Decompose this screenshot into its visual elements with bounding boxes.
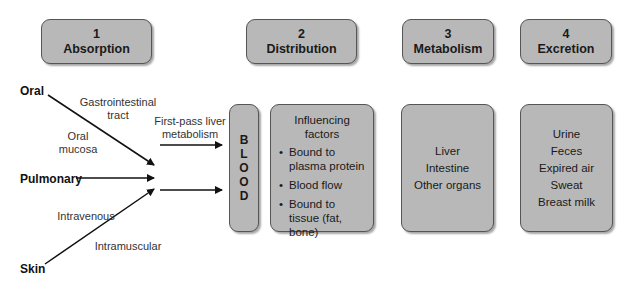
metabolism-site: Intestine bbox=[426, 160, 469, 177]
metabolism-site: Other organs bbox=[414, 177, 481, 194]
label-intramuscular: Intramuscular bbox=[90, 240, 166, 253]
excretion-route: Breast milk bbox=[538, 194, 595, 211]
route-pulmonary: Pulmonary bbox=[20, 172, 82, 186]
metabolism-site: Liver bbox=[435, 143, 460, 160]
factor-item: Bound to tissue (fat, bone) bbox=[279, 197, 365, 239]
factor-item: Bound to plasma protein bbox=[279, 145, 365, 173]
metabolism-sites-box: Liver Intestine Other organs bbox=[401, 104, 494, 232]
excretion-routes-box: Urine Feces Expired air Sweat Breast mil… bbox=[520, 104, 613, 232]
excretion-route: Feces bbox=[551, 143, 582, 160]
excretion-route: Sweat bbox=[551, 177, 583, 194]
factors-title: Influencing factors bbox=[279, 113, 365, 141]
distribution-factors-box: Influencing factors Bound to plasma prot… bbox=[270, 104, 374, 232]
factor-item: Blood flow bbox=[279, 178, 365, 192]
route-skin: Skin bbox=[20, 262, 45, 276]
label-intravenous: Intravenous bbox=[50, 210, 122, 223]
excretion-route: Urine bbox=[553, 126, 580, 143]
blood-column: B L O O D bbox=[229, 104, 259, 232]
label-first-pass: First-pass liver metabolism bbox=[150, 115, 230, 141]
label-oral-mucosa: Oral mucosa bbox=[50, 130, 106, 156]
excretion-route: Expired air bbox=[539, 160, 594, 177]
route-oral: Oral bbox=[20, 84, 44, 98]
